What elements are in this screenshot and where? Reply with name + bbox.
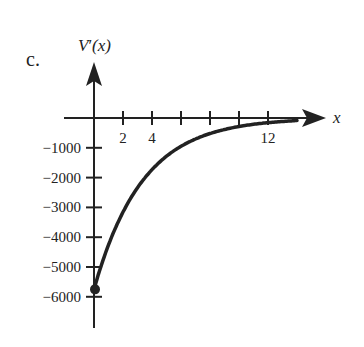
- y-tick-label: −2000: [43, 170, 81, 186]
- y-axis-label: V′(x): [78, 36, 111, 55]
- y-tick-label: −5000: [43, 259, 81, 275]
- x-tick-label: 2: [119, 130, 127, 146]
- x-tick-label: 4: [148, 130, 156, 146]
- y-tick-labels: −1000−2000−3000−4000−5000−6000: [43, 140, 81, 305]
- y-tick-label: −4000: [43, 229, 81, 245]
- y-tick-label: −1000: [43, 140, 81, 156]
- y-tick-label: −6000: [43, 289, 81, 305]
- axes: [64, 80, 312, 328]
- chart: c. V′(x) x 2412 −1000−2000−3000−4000−500…: [0, 0, 364, 347]
- x-axis-label: x: [332, 108, 341, 127]
- part-label: c.: [26, 48, 40, 70]
- y-tick-label: −3000: [43, 199, 81, 215]
- closed-point: [90, 284, 100, 294]
- x-tick-label: 12: [261, 130, 276, 146]
